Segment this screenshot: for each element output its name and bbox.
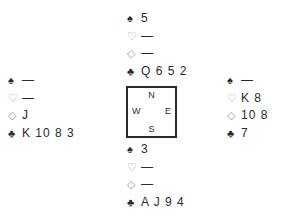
east-spades: ♠— [227,72,268,90]
north-hearts-cards: — [141,28,154,46]
west-hearts-cards: — [22,90,35,108]
diamond-icon: ◇ [227,107,241,125]
west-hand: ♠— ♡— ◇J ♣K 10 8 3 [8,72,75,142]
west-diamonds: ◇J [8,107,75,125]
west-clubs: ♣K 10 8 3 [8,125,75,143]
north-clubs: ♣Q 6 5 2 [127,63,187,81]
north-spades: ♠5 [127,10,187,28]
compass-north-label: N [128,90,175,100]
club-icon: ♣ [127,194,141,212]
west-diamonds-cards: J [22,107,29,125]
south-hand: ♠3 ♡— ◇— ♣A J 9 4 [127,141,185,211]
club-icon: ♣ [127,63,141,81]
north-hand: ♠5 ♡— ◇— ♣Q 6 5 2 [127,10,187,80]
compass-south-label: S [128,124,175,134]
south-hearts: ♡— [127,159,185,177]
compass-west-label: W [132,106,141,116]
heart-icon: ♡ [127,28,141,46]
south-clubs-cards: A J 9 4 [141,194,185,212]
north-clubs-cards: Q 6 5 2 [141,63,187,81]
south-clubs: ♣A J 9 4 [127,194,185,212]
heart-icon: ♡ [8,90,22,108]
east-hand: ♠— ♡K 8 ◇10 8 ♣7 [227,72,268,142]
south-diamonds-cards: — [141,176,154,194]
spade-icon: ♠ [227,72,241,90]
west-spades-cards: — [22,72,35,90]
north-diamonds: ◇— [127,45,187,63]
spade-icon: ♠ [127,141,141,159]
east-hearts-cards: K 8 [241,90,262,108]
spade-icon: ♠ [127,10,141,28]
compass-box: N W E S [126,86,177,138]
south-diamonds: ◇— [127,176,185,194]
spade-icon: ♠ [8,72,22,90]
east-diamonds-cards: 10 8 [241,107,268,125]
heart-icon: ♡ [227,90,241,108]
heart-icon: ♡ [127,159,141,177]
south-hearts-cards: — [141,159,154,177]
east-diamonds: ◇10 8 [227,107,268,125]
west-clubs-cards: K 10 8 3 [22,125,75,143]
compass-east-label: E [165,106,171,116]
west-hearts: ♡— [8,90,75,108]
east-hearts: ♡K 8 [227,90,268,108]
diamond-icon: ◇ [127,176,141,194]
club-icon: ♣ [8,125,22,143]
club-icon: ♣ [227,125,241,143]
diamond-icon: ◇ [8,107,22,125]
north-diamonds-cards: — [141,45,154,63]
north-hearts: ♡— [127,28,187,46]
west-spades: ♠— [8,72,75,90]
east-clubs-cards: 7 [241,125,249,143]
diamond-icon: ◇ [127,45,141,63]
east-spades-cards: — [241,72,254,90]
south-spades-cards: 3 [141,141,149,159]
north-spades-cards: 5 [141,10,149,28]
south-spades: ♠3 [127,141,185,159]
east-clubs: ♣7 [227,125,268,143]
